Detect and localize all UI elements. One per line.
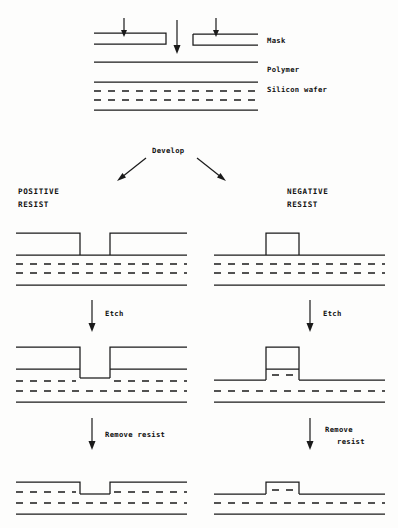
- label-remove-positive-line1: Remove resist: [105, 430, 165, 439]
- positive-remove-step: Remove resist: [89, 418, 166, 450]
- polymer-layer: [94, 62, 258, 82]
- mask-plate-right: [193, 34, 258, 45]
- heading-positive-line1: POSITIVE: [18, 187, 59, 196]
- label-etch-negative: Etch: [323, 309, 342, 318]
- exposure-arrow-left: [121, 18, 127, 37]
- negative-etch-step: Etch: [307, 300, 342, 332]
- develop-branch-group: Develop: [117, 146, 226, 181]
- negative-stage-developed: [214, 233, 385, 285]
- negative-stage-final: [214, 482, 385, 514]
- label-etch-positive: Etch: [105, 309, 124, 318]
- positive-stage-final: [16, 482, 187, 514]
- label-develop: Develop: [152, 146, 185, 155]
- exposure-arrow-center: [174, 20, 181, 54]
- label-polymer: Polymer: [267, 65, 300, 74]
- column-headings: POSITIVE RESIST NEGATIVE RESIST: [18, 187, 328, 209]
- heading-negative-line1: NEGATIVE: [287, 187, 328, 196]
- silicon-wafer-layer: [94, 91, 258, 110]
- label-remove-negative-line1: Remove: [325, 425, 353, 434]
- heading-negative-line2: RESIST: [287, 200, 318, 209]
- label-remove-negative-line2: resist: [337, 437, 365, 446]
- label-silicon-wafer: Silicon wafer: [267, 85, 328, 94]
- negative-remove-step: Remove resist: [307, 418, 365, 450]
- label-mask: Mask: [267, 36, 286, 45]
- diagram-canvas: Mask Polymer Silicon wafer Develop POSIT…: [0, 0, 398, 528]
- heading-positive-line2: RESIST: [18, 200, 49, 209]
- mask-plate-left: [94, 33, 166, 44]
- positive-stage-etched: [16, 347, 187, 402]
- positive-etch-step: Etch: [89, 300, 124, 332]
- top-stage-group: Mask Polymer Silicon wafer: [94, 18, 328, 110]
- develop-arrow-right: [197, 158, 226, 181]
- positive-stage-developed: [16, 233, 187, 285]
- negative-stage-etched: [214, 347, 385, 402]
- photolithography-diagram: Mask Polymer Silicon wafer Develop POSIT…: [0, 0, 398, 528]
- develop-arrow-left: [117, 158, 146, 181]
